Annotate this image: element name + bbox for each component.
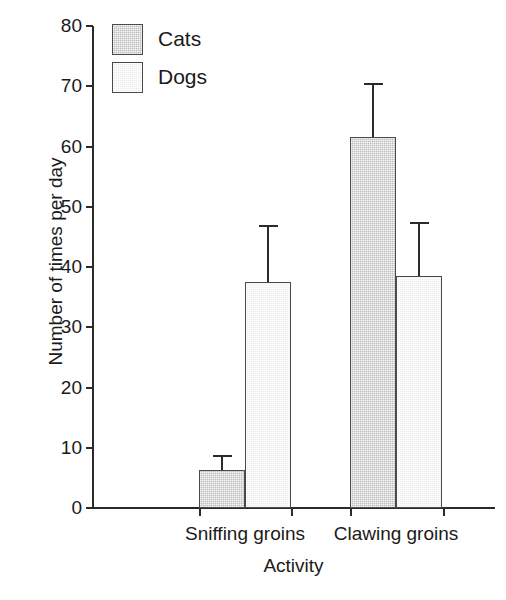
error-bar-stem-cats-0 [221,455,223,470]
y-tick-label-10: 10 [48,438,82,457]
error-bar-stem-dogs-1 [418,222,420,276]
category-label-0: Sniffing groins [160,524,330,543]
x-tick-1 [291,508,293,516]
y-tick-label-wrap-80: 80 [44,16,82,35]
x-tick-2 [350,508,352,516]
y-tick-label-wrap-10: 10 [44,438,82,457]
bar-chart-figure: 01020304050607080 Sniffing groinsClawing… [0,0,506,600]
y-tick-50 [86,206,93,208]
error-bar-stem-dogs-0 [267,225,269,282]
bar-dogs-1 [396,276,442,508]
y-tick-40 [86,266,93,268]
category-label-1: Clawing groins [311,524,481,543]
x-tick-0 [199,508,201,516]
legend-label-cats: Cats [158,28,201,49]
error-bar-cap-cats-1 [364,83,383,85]
y-tick-70 [86,85,93,87]
y-tick-60 [86,146,93,148]
x-axis-title: Activity [92,556,495,575]
y-tick-30 [86,326,93,328]
legend-label-dogs: Dogs [158,66,207,87]
error-bar-stem-cats-1 [372,83,374,137]
y-tick-label-wrap-0: 0 [44,498,82,517]
y-tick-label-70: 70 [48,76,82,95]
legend-swatch-cats-icon [112,24,143,55]
y-tick-20 [86,387,93,389]
y-tick-label-0: 0 [48,498,82,517]
x-tick-3 [443,508,445,516]
y-tick-80 [86,25,93,27]
error-bar-cap-dogs-1 [410,222,429,224]
bar-cats-0 [199,470,245,508]
y-tick-0 [86,507,93,509]
bar-cats-1 [350,137,396,508]
y-tick-label-wrap-70: 70 [44,76,82,95]
error-bar-cap-dogs-0 [259,225,278,227]
bar-dogs-0 [245,282,291,508]
legend-swatch-dogs-icon [112,62,143,93]
y-tick-10 [86,447,93,449]
y-axis-title: Number of times per day [46,112,65,412]
error-bar-cap-cats-0 [213,455,232,457]
y-tick-label-80: 80 [48,16,82,35]
